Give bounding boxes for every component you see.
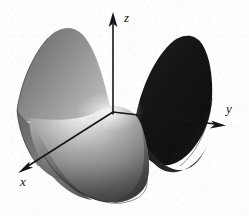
- surface-plot-figure: z y x: [0, 0, 249, 216]
- axis-x-label: x: [19, 174, 26, 189]
- saddle-point-highlight: [76, 92, 144, 132]
- surface-plot-canvas: z y x: [0, 0, 249, 216]
- axis-z-label: z: [123, 10, 129, 25]
- axis-y-label: y: [224, 101, 232, 116]
